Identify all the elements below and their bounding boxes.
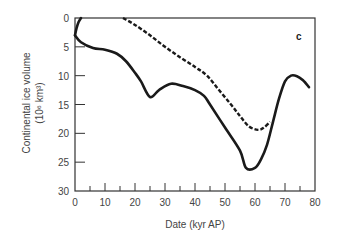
y-axis-unit: (10⁶ km³) bbox=[34, 82, 45, 123]
x-axis-label: Date (kyr AP) bbox=[165, 219, 224, 230]
y-tick-label: 15 bbox=[58, 100, 70, 111]
x-tick-label: 10 bbox=[99, 197, 111, 208]
x-tick-label: 30 bbox=[159, 197, 171, 208]
x-tick-label: 60 bbox=[249, 197, 261, 208]
dashed-line bbox=[123, 18, 270, 130]
x-tick-label: 0 bbox=[72, 197, 78, 208]
y-tick-label: 30 bbox=[58, 186, 70, 197]
x-tick-label: 70 bbox=[279, 197, 291, 208]
y-tick-label: 10 bbox=[58, 71, 70, 82]
solid-early-branch-line bbox=[75, 18, 81, 35]
x-tick-label: 80 bbox=[309, 197, 321, 208]
x-tick-label: 50 bbox=[219, 197, 231, 208]
ice-volume-chart: 01020304050607080051015202530 c Date (ky… bbox=[0, 0, 338, 244]
y-axis-label: Continental ice volume bbox=[21, 52, 32, 154]
x-tick-label: 40 bbox=[189, 197, 201, 208]
solid-line bbox=[75, 35, 309, 169]
panel-label: c bbox=[296, 31, 302, 42]
data-series bbox=[75, 18, 309, 170]
y-tick-label: 20 bbox=[58, 128, 70, 139]
y-tick-label: 5 bbox=[63, 42, 69, 53]
y-tick-label: 25 bbox=[58, 157, 70, 168]
plot-axes bbox=[75, 18, 315, 191]
y-tick-label: 0 bbox=[63, 13, 69, 24]
plot-frame bbox=[75, 18, 315, 191]
x-tick-label: 20 bbox=[129, 197, 141, 208]
axis-ticks: 01020304050607080051015202530 bbox=[58, 13, 321, 208]
